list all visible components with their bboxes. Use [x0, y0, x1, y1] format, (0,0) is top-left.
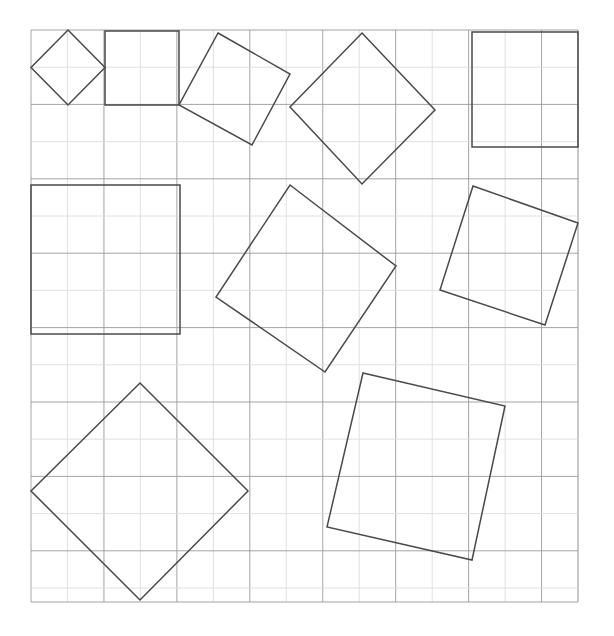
grid-layer — [31, 30, 578, 602]
shapes-layer — [31, 30, 578, 600]
square-shape — [179, 33, 290, 145]
square-shape — [472, 32, 578, 147]
square-shape — [105, 31, 179, 105]
square-shape — [440, 186, 578, 325]
square-shape — [290, 33, 435, 184]
square-shape — [327, 373, 505, 560]
square-shape — [31, 383, 248, 600]
figure-svg — [0, 0, 614, 636]
square-shape — [216, 185, 396, 372]
square-shape — [31, 185, 180, 334]
geometry-figure-canvas — [0, 0, 614, 636]
